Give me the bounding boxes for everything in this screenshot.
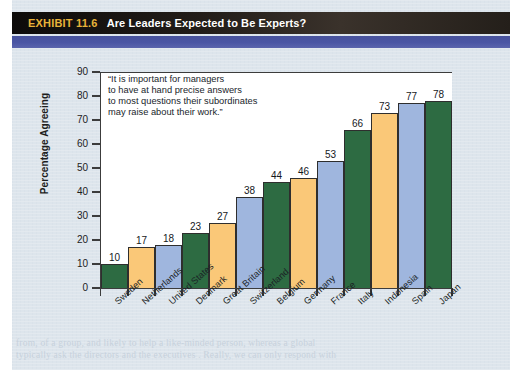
bar-column[interactable]: 10 bbox=[101, 72, 128, 288]
bar[interactable] bbox=[317, 161, 344, 288]
bar-column[interactable]: 78 bbox=[425, 72, 452, 288]
bar-column[interactable]: 27 bbox=[209, 72, 236, 288]
bar-value-label: 18 bbox=[155, 233, 182, 244]
bar-value-label: 23 bbox=[182, 221, 209, 232]
bar-value-label: 46 bbox=[290, 166, 317, 177]
bar-column[interactable]: 23 bbox=[182, 72, 209, 288]
bar-series: 10171823273844465366737778 bbox=[101, 72, 452, 288]
y-axis-tick-label: 70 bbox=[66, 114, 88, 125]
y-axis-tick-mark bbox=[92, 143, 100, 144]
bar-column[interactable]: 53 bbox=[317, 72, 344, 288]
y-axis-tick-mark bbox=[92, 263, 100, 264]
exhibit-title: Are Leaders Expected to Be Experts? bbox=[107, 17, 307, 29]
y-axis-tick: 80 bbox=[66, 90, 106, 102]
bar[interactable] bbox=[371, 113, 398, 288]
bar-value-label: 78 bbox=[425, 89, 452, 100]
y-axis-tick-mark bbox=[92, 119, 100, 120]
y-axis-tick-label: 0 bbox=[66, 282, 88, 293]
bar-value-label: 77 bbox=[398, 91, 425, 102]
bar[interactable] bbox=[398, 103, 425, 288]
y-axis-tick: 70 bbox=[66, 114, 106, 126]
header-accent-rule bbox=[12, 36, 510, 48]
y-axis-tick: 40 bbox=[66, 186, 106, 198]
y-axis-tick-mark bbox=[92, 215, 100, 216]
bar-value-label: 10 bbox=[101, 252, 128, 263]
y-axis-tick-label: 20 bbox=[66, 234, 88, 245]
y-axis-tick-mark bbox=[92, 191, 100, 192]
bar-column[interactable]: 38 bbox=[236, 72, 263, 288]
y-axis-tick-label: 90 bbox=[66, 66, 88, 77]
bar-column[interactable]: 66 bbox=[344, 72, 371, 288]
y-axis-tick-mark bbox=[92, 167, 100, 168]
y-axis-tick-label: 80 bbox=[66, 90, 88, 101]
y-axis-tick: 90 bbox=[66, 66, 106, 78]
y-axis-tick-label: 30 bbox=[66, 210, 88, 221]
bar[interactable] bbox=[290, 178, 317, 288]
y-axis-tick-mark bbox=[92, 71, 100, 72]
y-axis-tick: 50 bbox=[66, 162, 106, 174]
y-axis-tick: 60 bbox=[66, 138, 106, 150]
bar-column[interactable]: 73 bbox=[371, 72, 398, 288]
bar-chart: Percentage Agreeing 0102030405060708090 … bbox=[0, 52, 510, 352]
y-axis-tick-label: 40 bbox=[66, 186, 88, 197]
bar-value-label: 53 bbox=[317, 149, 344, 160]
y-axis-tick-mark bbox=[92, 239, 100, 240]
bar[interactable] bbox=[101, 264, 128, 288]
bar-value-label: 73 bbox=[371, 101, 398, 112]
bar-column[interactable]: 44 bbox=[263, 72, 290, 288]
bar-column[interactable]: 46 bbox=[290, 72, 317, 288]
scan-bleed-line-2: typically ask the directors and the exec… bbox=[16, 350, 504, 360]
exhibit-header-bar: EXHIBIT 11.6 Are Leaders Expected to Be … bbox=[12, 12, 510, 34]
y-axis-tick: 10 bbox=[66, 258, 106, 270]
y-axis-tick-label: 60 bbox=[66, 138, 88, 149]
y-axis-tick-label: 50 bbox=[66, 162, 88, 173]
bar-column[interactable]: 77 bbox=[398, 72, 425, 288]
y-axis-tick-mark bbox=[92, 287, 100, 288]
y-axis-title: Percentage Agreeing bbox=[39, 74, 50, 214]
y-axis-tick-label: 10 bbox=[66, 258, 88, 269]
y-axis-tick-mark bbox=[92, 95, 100, 96]
bar-value-label: 44 bbox=[263, 170, 290, 181]
exhibit-number-label: EXHIBIT 11.6 bbox=[28, 17, 98, 29]
y-axis-tick: 30 bbox=[66, 210, 106, 222]
bar-value-label: 27 bbox=[209, 211, 236, 222]
bar-value-label: 17 bbox=[128, 235, 155, 246]
bar-value-label: 66 bbox=[344, 118, 371, 129]
bar-column[interactable]: 17 bbox=[128, 72, 155, 288]
y-axis-tick: 20 bbox=[66, 234, 106, 246]
exhibit-page: EXHIBIT 11.6 Are Leaders Expected to Be … bbox=[0, 0, 510, 370]
bar-column[interactable]: 18 bbox=[155, 72, 182, 288]
bar-value-label: 38 bbox=[236, 185, 263, 196]
bar[interactable] bbox=[425, 101, 452, 288]
scan-bleed-line-1: from, of a group, and likely to help a l… bbox=[16, 338, 504, 348]
bar[interactable] bbox=[344, 130, 371, 288]
